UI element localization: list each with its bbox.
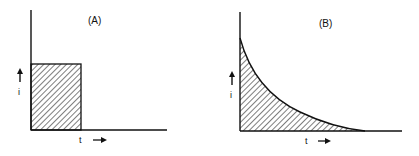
- up-arrow-icon: [17, 68, 23, 82]
- panel-a: (A) i t: [17, 10, 167, 145]
- y-axis-label-a: i: [18, 87, 20, 97]
- right-arrow-icon: [318, 138, 331, 144]
- panel-b: (B) i t: [229, 12, 402, 146]
- shaded-area-b: [240, 38, 365, 131]
- panel-label-a: (A): [88, 15, 101, 26]
- panel-label-b: (B): [319, 18, 332, 29]
- y-axis-label-b: i: [230, 90, 232, 100]
- up-arrow-icon: [229, 71, 235, 85]
- x-axis-label-b: t: [305, 136, 308, 146]
- x-axis-label-a: t: [79, 135, 82, 145]
- right-arrow-icon: [93, 137, 107, 143]
- diagram-canvas: (A) i t (B) i t: [0, 0, 419, 156]
- shaded-area-a: [31, 64, 81, 130]
